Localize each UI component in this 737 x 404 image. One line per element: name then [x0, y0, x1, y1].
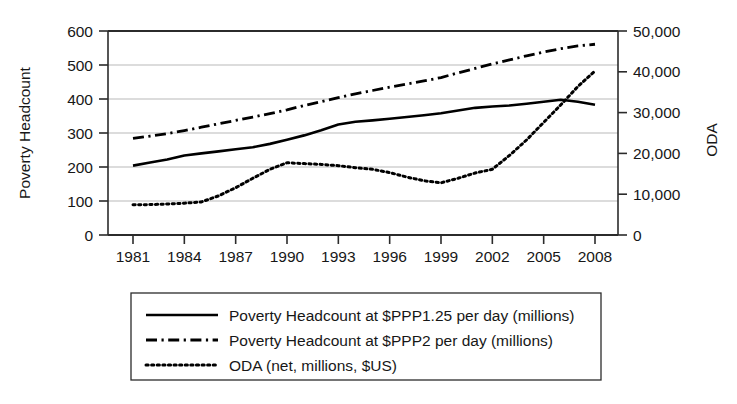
y2-tick-label: 40,000	[633, 63, 681, 80]
y2-tick-label: 50,000	[633, 23, 681, 40]
x-tick-label: 1996	[372, 248, 406, 265]
chart-legend: Poverty Headcount at $PPP1.25 per day (m…	[131, 293, 601, 380]
x-tick-label: 2002	[475, 248, 509, 265]
legend-label-1: Poverty Headcount at $PPP2 per day (mill…	[229, 332, 553, 349]
legend-label-0: Poverty Headcount at $PPP1.25 per day (m…	[229, 307, 574, 324]
legend-label-2: ODA (net, millions, $US)	[229, 357, 397, 374]
x-tick-label: 1981	[116, 248, 150, 265]
y-tick-label: 500	[67, 57, 93, 74]
y-tick-label: 400	[67, 91, 93, 108]
y2-tick-label: 20,000	[633, 145, 681, 162]
line-chart: 0100200300400500600 010,00020,00030,0004…	[0, 0, 737, 404]
y-tick-label: 100	[67, 193, 93, 210]
y2-axis-title: ODA	[703, 123, 720, 157]
x-tick-label: 1987	[218, 248, 252, 265]
x-tick-label: 1990	[270, 248, 305, 265]
x-tick-label: 1984	[167, 248, 202, 265]
chart-figure: 0100200300400500600 010,00020,00030,0004…	[0, 0, 737, 404]
y2-tick-label: 0	[633, 227, 642, 244]
y-axis-title: Poverty Headcount	[16, 66, 33, 199]
x-tick-label: 1993	[321, 248, 355, 265]
x-tick-label: 2005	[526, 248, 560, 265]
y-tick-label: 200	[67, 159, 93, 176]
x-tick-label: 2008	[578, 248, 612, 265]
y2-tick-label: 10,000	[633, 186, 681, 203]
y-tick-label: 600	[67, 23, 93, 40]
y2-tick-label: 30,000	[633, 104, 681, 121]
y-tick-label: 300	[67, 125, 93, 142]
x-tick-label: 1999	[424, 248, 458, 265]
y-tick-label: 0	[84, 227, 93, 244]
